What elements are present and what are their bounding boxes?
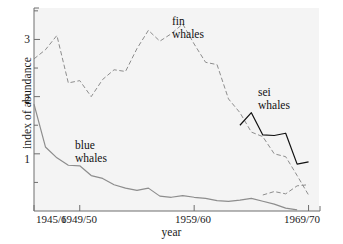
blue-whales-label-line1: blue [75, 139, 107, 152]
series-line-blue-whales [34, 104, 297, 210]
y-tick-label: 2 [12, 93, 30, 105]
series-line-fin-whales-tail [263, 185, 309, 195]
series-line-sei-whales [240, 113, 309, 164]
fin-whales-label-line2: whales [172, 28, 204, 41]
x-tick-label: 1969/70 [284, 213, 320, 225]
series-annotation-sei-whales: sei whales [258, 86, 290, 111]
x-tick-marks [34, 205, 309, 211]
x-tick-label: 1959/60 [175, 213, 211, 225]
series-annotation-blue-whales: blue whales [75, 139, 107, 164]
y-tick-label: 3 [12, 33, 30, 45]
x-tick-label: 1949/50 [61, 213, 97, 225]
blue-whales-label-line2: whales [75, 152, 107, 165]
y-tick-marks [34, 11, 40, 183]
y-tick-label: 1 [12, 153, 30, 165]
chart-figure: index of abundance year 321 1945/61949/5… [0, 0, 343, 244]
fin-whales-label-line1: fin [172, 15, 204, 28]
data-series-group [34, 24, 309, 210]
sei-whales-label-line2: whales [258, 99, 290, 112]
x-axis-title: year [0, 226, 343, 238]
series-annotation-fin-whales: fin whales [172, 15, 204, 40]
sei-whales-label-line1: sei [258, 86, 290, 99]
